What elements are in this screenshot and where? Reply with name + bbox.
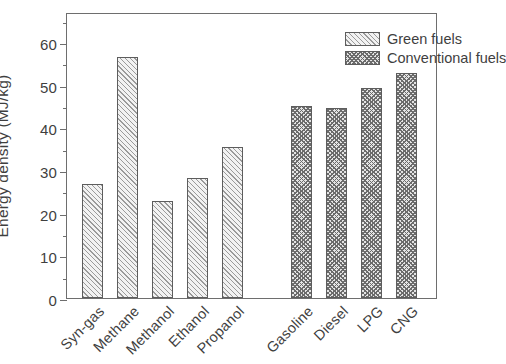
- bar-methanol: [152, 201, 173, 298]
- y-tick-minor: [63, 236, 67, 237]
- y-tick-major: [60, 300, 67, 301]
- y-tick-minor: [63, 23, 67, 24]
- legend-label-green-fuels: Green fuels: [387, 31, 462, 47]
- y-tick-major: [60, 215, 67, 216]
- y-tick-minor: [63, 65, 67, 66]
- legend-swatch-green-fuels-icon: [345, 32, 380, 46]
- legend-label-conventional-fuels: Conventional fuels: [387, 50, 506, 66]
- y-tick-major: [60, 257, 67, 258]
- y-tick-major: [60, 87, 67, 88]
- y-tick-label: 50: [40, 78, 57, 95]
- x-tick-label-gasoline: Gasoline: [263, 303, 316, 356]
- bar-lpg: [361, 88, 382, 298]
- y-tick-minor: [63, 193, 67, 194]
- legend-swatch-conventional-fuels-icon: [345, 51, 380, 65]
- x-tick-label-cng: CNG: [386, 303, 421, 338]
- bar-cng: [396, 73, 417, 298]
- y-tick-label: 30: [40, 163, 57, 180]
- bar-diesel: [326, 108, 347, 298]
- legend-item-conventional-fuels: Conventional fuels: [345, 49, 506, 66]
- y-tick-minor: [63, 279, 67, 280]
- bar-syn-gas: [82, 184, 103, 298]
- y-tick-minor: [63, 108, 67, 109]
- plot-area: 0102030405060 Green fuels Conventional f…: [66, 13, 437, 299]
- bar-ethanol: [187, 178, 208, 298]
- legend-item-green-fuels: Green fuels: [345, 30, 506, 47]
- bar-propanol: [222, 147, 243, 298]
- y-axis-title: Energy density (MJ/kg): [0, 41, 12, 271]
- figure-caption: [4, 352, 451, 364]
- bar-gasoline: [291, 106, 312, 298]
- y-tick-label: 20: [40, 206, 57, 223]
- y-tick-major: [60, 172, 67, 173]
- x-tick-label-diesel: Diesel: [310, 303, 351, 344]
- y-tick-major: [60, 129, 67, 130]
- y-tick-label: 0: [48, 292, 57, 309]
- y-tick-major: [60, 44, 67, 45]
- y-axis-title-label: Energy density (MJ/kg): [0, 41, 12, 271]
- chart-legend: Green fuels Conventional fuels: [345, 30, 506, 68]
- y-tick-minor: [63, 151, 67, 152]
- y-tick-label: 60: [40, 35, 57, 52]
- x-tick-label-lpg: LPG: [354, 303, 386, 335]
- y-tick-label: 40: [40, 121, 57, 138]
- bar-methane: [117, 57, 138, 298]
- y-tick-label: 10: [40, 249, 57, 266]
